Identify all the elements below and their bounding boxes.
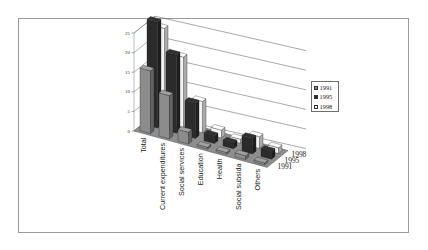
legend-item-1991: 1991 — [314, 83, 337, 93]
x-tick-label: Social services — [177, 148, 186, 196]
bar-1991-2 — [178, 127, 192, 144]
bar-1991-0 — [140, 65, 154, 133]
chart-legend: 1991 1995 1998 — [311, 81, 339, 112]
x-tick-label: Education — [196, 153, 205, 185]
bar-1995-5 — [242, 133, 256, 154]
y-tick-label: 25 — [125, 31, 131, 36]
legend-item-1998: 1998 — [314, 102, 337, 112]
y-tick-label: 20 — [125, 50, 131, 55]
x-tick-label: Others — [253, 168, 262, 190]
y-tick-label: 10 — [125, 89, 131, 94]
legend-swatch-1995 — [314, 95, 318, 99]
x-tick-label: Current expenditures — [158, 142, 167, 210]
y-tick-label: 15 — [125, 70, 131, 75]
x-tick-label: Health — [215, 158, 224, 179]
bar-1991-1 — [159, 90, 173, 139]
legend-label: 1998 — [320, 104, 333, 110]
chart-bars — [140, 17, 282, 165]
y-tick-label: 5 — [128, 109, 131, 114]
legend-label: 1991 — [320, 85, 333, 91]
legend-label: 1995 — [320, 94, 333, 100]
legend-item-1995: 1995 — [314, 93, 337, 103]
legend-swatch-1998 — [314, 105, 318, 109]
legend-swatch-1991 — [314, 86, 318, 90]
x-tick-label: Social subsida — [234, 164, 243, 210]
x-tick-label: Total — [139, 137, 148, 153]
y-tick-label: 0 — [128, 129, 131, 134]
depth-tick-label: 1991 — [278, 162, 293, 171]
chart-plot: 0510152025TotalCurrent expendituresSocia… — [0, 0, 428, 250]
